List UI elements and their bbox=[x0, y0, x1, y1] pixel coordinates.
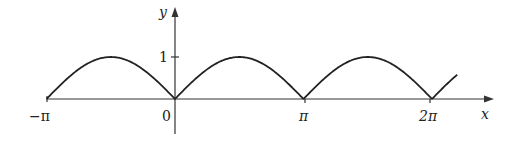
x-axis-arrow-icon bbox=[484, 96, 494, 103]
y-axis-arrow-icon bbox=[172, 7, 179, 17]
x-tick-label-zero: 0 bbox=[162, 108, 171, 124]
y-tick-label-1: 1 bbox=[159, 49, 168, 65]
y-axis-label: y bbox=[158, 4, 168, 20]
x-tick-label-pi: π bbox=[298, 108, 309, 124]
abs-sin-curve bbox=[47, 57, 458, 99]
x-tick-label-2pi: 2π bbox=[418, 108, 438, 124]
chart: y 1 −π 0 π 2π x bbox=[0, 0, 510, 142]
x-tick-label-neg-pi: −π bbox=[29, 108, 50, 124]
x-axis-label: x bbox=[481, 106, 489, 122]
